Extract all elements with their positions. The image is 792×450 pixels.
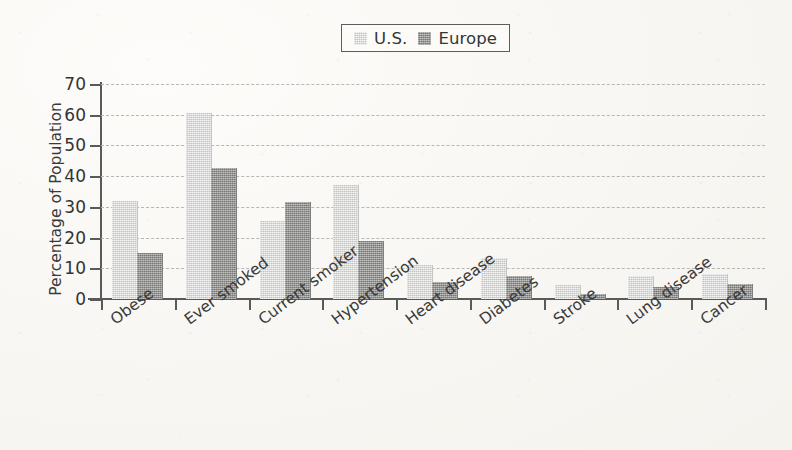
y-tick-mark xyxy=(90,115,101,117)
x-tick-mark xyxy=(617,300,619,310)
x-tick-mark xyxy=(249,300,251,310)
y-tick-mark xyxy=(90,207,101,209)
x-tick-mark xyxy=(691,300,693,310)
y-tick-label: 50 xyxy=(64,135,86,155)
y-tick-label: 30 xyxy=(64,197,86,217)
y-tick-label: 20 xyxy=(64,228,86,248)
us-swatch-icon xyxy=(354,32,367,45)
y-tick-mark xyxy=(90,145,101,147)
bar-hypertension-us xyxy=(333,185,359,299)
europe-swatch-icon xyxy=(418,32,431,45)
y-tick-label: 10 xyxy=(64,258,86,278)
plot-area xyxy=(101,84,765,299)
x-tick-mark xyxy=(470,300,472,310)
y-tick-mark xyxy=(90,84,101,86)
y-axis-title: Percentage of Population xyxy=(47,74,65,324)
y-tick-mark xyxy=(90,268,101,270)
x-tick-mark xyxy=(101,300,103,310)
gridline xyxy=(101,84,765,85)
x-tick-mark xyxy=(175,300,177,310)
y-tick-label: 40 xyxy=(64,166,86,186)
x-tick-mark xyxy=(544,300,546,310)
x-tick-mark xyxy=(765,300,767,310)
x-tick-mark xyxy=(322,300,324,310)
chart-page: U.S. Europe Percentage of Population 706… xyxy=(0,0,792,450)
legend-entry-us: U.S. xyxy=(354,29,407,48)
y-tick-mark xyxy=(90,299,101,301)
legend-label-europe: Europe xyxy=(438,29,497,48)
x-tick-mark xyxy=(396,300,398,310)
y-tick-mark xyxy=(90,176,101,178)
y-tick-mark xyxy=(90,238,101,240)
y-tick-label: 60 xyxy=(64,105,86,125)
bar-obese-us xyxy=(112,201,138,299)
legend-entry-europe: Europe xyxy=(418,29,497,48)
y-tick-label: 70 xyxy=(64,74,86,94)
chart-legend: U.S. Europe xyxy=(341,24,510,52)
legend-label-us: U.S. xyxy=(374,29,407,48)
y-tick-label: 0 xyxy=(75,289,86,309)
bar-ever-smoked-us xyxy=(186,113,212,299)
